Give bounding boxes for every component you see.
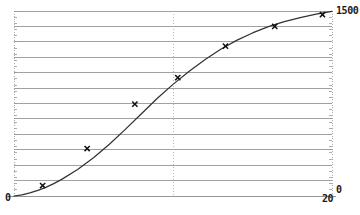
x-axis-max-label: 20 [322,193,333,204]
y-axis-max-label: 1500 [336,5,358,16]
x-axis-min-label: 0 [5,192,11,203]
y-axis-min-label: 0 [336,184,342,195]
data-point-markers [40,12,325,188]
y-axis-left-spine [14,11,17,196]
chart-page: 1500 0 0 20 [0,0,360,215]
chart-plot-area [0,0,360,215]
y-axis-right-spine [329,11,332,196]
